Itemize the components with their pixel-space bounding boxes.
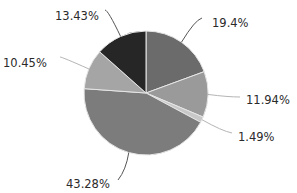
pie-chart: 19.4% 11.94% 1.49% 43.28% 10.45% 13.43% — [0, 0, 297, 193]
data-label-5: 13.43% — [55, 9, 99, 23]
leader-line-4 — [60, 57, 89, 69]
leader-line-3 — [118, 153, 129, 180]
pie-slices — [84, 31, 208, 155]
data-label-0: 19.4% — [212, 16, 249, 30]
leader-line-1 — [208, 94, 240, 97]
data-label-3: 43.28% — [66, 177, 110, 191]
leader-line-0 — [181, 18, 202, 42]
data-label-2: 1.49% — [238, 130, 275, 144]
leader-line-2 — [202, 120, 232, 133]
leader-line-5 — [105, 10, 121, 36]
data-label-1: 11.94% — [246, 93, 290, 107]
data-label-4: 10.45% — [3, 56, 47, 70]
